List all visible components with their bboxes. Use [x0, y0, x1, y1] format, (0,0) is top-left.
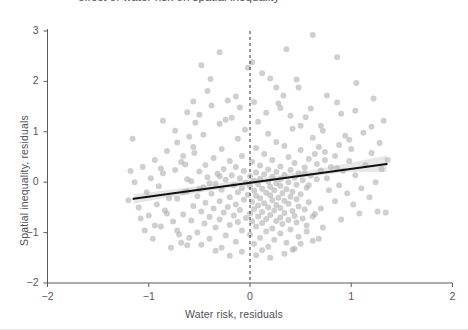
- data-point: [140, 164, 146, 170]
- data-point: [265, 167, 271, 173]
- data-point: [142, 228, 148, 234]
- data-point: [269, 197, 275, 203]
- data-point: [281, 172, 287, 178]
- data-point: [288, 167, 294, 173]
- data-point: [273, 218, 279, 224]
- data-point: [322, 157, 328, 163]
- data-point: [271, 207, 277, 213]
- chart-figure: effect of water risk on spatial inequali…: [0, 0, 468, 330]
- data-point: [300, 177, 306, 183]
- data-point: [221, 166, 227, 172]
- data-point: [373, 179, 379, 185]
- data-point: [298, 147, 304, 153]
- data-point: [225, 98, 231, 104]
- data-point: [294, 182, 300, 188]
- data-point: [326, 187, 332, 193]
- data-point: [281, 210, 287, 216]
- data-point: [241, 197, 247, 203]
- data-point: [204, 174, 210, 180]
- data-point: [259, 70, 265, 76]
- data-point: [235, 136, 241, 142]
- data-point: [184, 242, 190, 248]
- data-point: [138, 215, 144, 221]
- data-point: [194, 193, 200, 199]
- data-point: [348, 146, 354, 152]
- data-point: [217, 217, 223, 223]
- data-point: [223, 117, 229, 123]
- data-point: [324, 93, 330, 99]
- data-point: [288, 194, 294, 200]
- data-point: [300, 215, 306, 221]
- scatter-plot-canvas: [0, 0, 468, 330]
- data-point: [356, 210, 362, 216]
- x-tick-label: 1: [336, 290, 366, 302]
- data-point: [213, 225, 219, 231]
- data-point: [302, 206, 308, 212]
- data-point: [269, 226, 275, 232]
- data-point: [202, 162, 208, 168]
- data-point: [322, 149, 328, 155]
- data-point: [186, 134, 192, 140]
- data-point: [328, 164, 334, 170]
- data-point: [277, 164, 283, 170]
- data-point: [158, 224, 164, 230]
- data-point: [160, 170, 166, 176]
- data-point: [316, 236, 322, 242]
- data-point: [377, 140, 383, 146]
- data-point: [196, 169, 202, 175]
- data-point: [251, 99, 257, 105]
- data-point: [227, 253, 233, 259]
- data-point: [217, 49, 223, 55]
- data-point: [225, 204, 231, 210]
- data-point: [294, 196, 300, 202]
- data-point: [227, 158, 233, 164]
- data-point: [235, 219, 241, 225]
- data-point: [209, 191, 215, 197]
- data-point: [352, 108, 358, 114]
- data-point: [208, 76, 214, 82]
- data-point: [207, 236, 213, 242]
- data-point: [294, 76, 300, 82]
- data-point: [184, 109, 190, 115]
- data-point: [294, 220, 300, 226]
- data-point: [296, 234, 302, 240]
- data-point: [281, 143, 287, 149]
- x-tick-label: −1: [134, 290, 164, 302]
- data-point: [296, 84, 302, 90]
- data-point: [259, 220, 265, 226]
- data-point: [298, 123, 304, 129]
- data-point: [233, 94, 239, 100]
- data-point: [213, 248, 219, 254]
- data-point: [255, 213, 261, 219]
- data-point: [239, 228, 245, 234]
- data-point: [265, 131, 271, 137]
- data-point: [379, 166, 385, 172]
- data-point: [257, 163, 263, 169]
- data-point: [324, 175, 330, 181]
- data-point: [148, 175, 154, 181]
- data-point: [277, 205, 283, 211]
- y-tick-label: 2: [17, 74, 39, 86]
- data-point: [126, 197, 132, 203]
- data-point: [198, 242, 204, 248]
- y-tick-label: 3: [17, 24, 39, 36]
- data-point: [281, 251, 287, 257]
- data-point: [229, 115, 235, 121]
- data-point: [263, 229, 269, 235]
- data-point: [146, 212, 152, 218]
- data-point: [198, 208, 204, 214]
- data-point: [314, 176, 320, 182]
- data-point: [178, 159, 184, 165]
- data-point: [285, 217, 291, 223]
- data-point: [200, 132, 206, 138]
- data-point: [211, 205, 217, 211]
- data-point: [229, 172, 235, 178]
- data-point: [285, 201, 291, 207]
- data-point: [217, 121, 223, 127]
- data-point: [290, 126, 296, 132]
- data-point: [375, 208, 381, 214]
- data-point: [263, 110, 269, 116]
- x-axis-label: Water risk, residuals: [0, 308, 468, 320]
- y-tick-label: 0: [17, 175, 39, 187]
- data-point: [366, 194, 372, 200]
